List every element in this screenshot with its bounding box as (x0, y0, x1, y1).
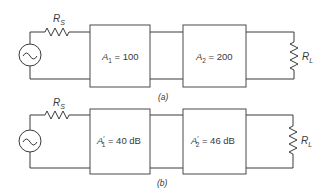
caption-b: (b) (157, 178, 168, 188)
circuit-a: RS A1 = 100 A2 = 200 RL (a) (19, 13, 313, 102)
rl-label: RL (302, 51, 313, 64)
ac-source-icon (19, 44, 41, 66)
stage-2-gain-label: A2 = 200 (195, 51, 233, 64)
resistor-rs-icon (45, 28, 90, 36)
wire-load-top (246, 115, 293, 126)
stage-2-gain-label: A′2 = 46 dB (190, 135, 235, 148)
rl-label: RL (301, 135, 312, 148)
rs-label: RS (53, 13, 65, 26)
wire-source-bottom (30, 152, 90, 168)
caption-a: (a) (158, 92, 169, 102)
circuit-b: RS A′1 = 40 dB A′2 = 46 dB RL (b) (19, 97, 312, 188)
resistor-rs-icon (45, 111, 90, 119)
resistor-rl-icon (246, 42, 298, 79)
wire-load-top (246, 32, 294, 42)
stage-1-gain-label: A′1 = 40 dB (96, 135, 141, 148)
ac-source-icon (19, 130, 41, 152)
wire-source-bottom (30, 66, 90, 79)
wire-source-top (30, 115, 45, 130)
stage-1-gain-label: A1 = 100 (101, 51, 139, 64)
rs-label: RS (53, 97, 65, 110)
cascaded-amplifier-diagram: RS A1 = 100 A2 = 200 RL (a) RS A′1 = 40 … (0, 0, 327, 193)
wire-source-top (30, 32, 45, 44)
resistor-rl-icon (246, 126, 297, 168)
